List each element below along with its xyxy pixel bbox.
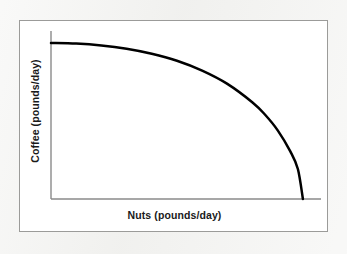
ppf-curve — [51, 43, 303, 199]
y-axis-title: Coffee (pounds/day) — [29, 59, 41, 162]
figure-frame: Coffee (pounds/day) Nuts (pounds/day) — [19, 20, 328, 232]
plot-area: Coffee (pounds/day) Nuts (pounds/day) — [20, 21, 329, 233]
ppf-chart — [20, 21, 329, 233]
x-axis-title: Nuts (pounds/day) — [20, 209, 329, 221]
figure-page: Coffee (pounds/day) Nuts (pounds/day) — [0, 0, 347, 254]
